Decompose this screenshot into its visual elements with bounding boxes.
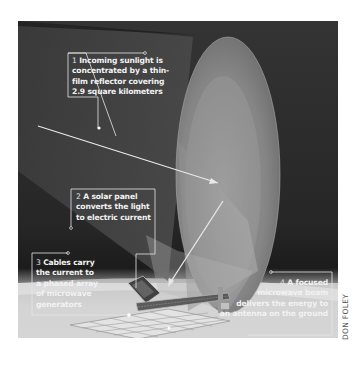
callout-4: 4 A focused microwave beam delivers the … xyxy=(220,278,328,320)
callout-4-number: 4 xyxy=(280,278,285,287)
callout-1: 1 Incoming sunlight is concentrated by a… xyxy=(72,56,169,98)
callout-1-number: 1 xyxy=(72,56,77,65)
callout-2-number: 2 xyxy=(76,192,81,201)
illustrator-credit: DON FOLEY xyxy=(341,300,353,340)
callout-3: 3 Cables carry the current to a phased a… xyxy=(36,258,98,310)
illustration-panel: 1 Incoming sunlight is concentrated by a… xyxy=(18,21,338,338)
callout-2: 2 A solar panel converts the light to el… xyxy=(76,192,151,223)
callout-3-number: 3 xyxy=(36,258,41,267)
